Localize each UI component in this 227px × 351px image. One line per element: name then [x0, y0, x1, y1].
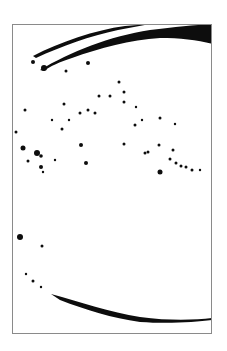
- ink-dot: [86, 61, 90, 65]
- ink-dot: [158, 170, 163, 175]
- ink-dot: [15, 131, 18, 134]
- ink-dot: [79, 112, 82, 115]
- ink-artwork-canvas: [0, 0, 227, 351]
- ink-dot: [39, 154, 43, 158]
- ink-dot: [147, 151, 150, 154]
- ink-artwork: [0, 0, 227, 351]
- ink-dot: [17, 234, 23, 240]
- ink-dot: [61, 128, 64, 131]
- ink-dot: [24, 109, 27, 112]
- ink-dot: [123, 143, 126, 146]
- ink-dot: [40, 286, 42, 288]
- ink-dot: [51, 119, 53, 121]
- ink-dot: [31, 60, 35, 64]
- ink-dot: [25, 273, 27, 275]
- ink-dot: [123, 101, 126, 104]
- ink-dot: [174, 123, 176, 125]
- ink-dot: [94, 112, 97, 115]
- ink-dot: [199, 169, 201, 171]
- ink-dot: [141, 119, 143, 121]
- top-main-stroke: [40, 24, 213, 71]
- ink-dot: [54, 159, 56, 161]
- ink-dot: [134, 124, 137, 127]
- ink-dot: [109, 95, 112, 98]
- ink-dot: [185, 166, 188, 169]
- ink-dot: [32, 280, 35, 283]
- ink-dot: [27, 160, 30, 163]
- ink-dot: [191, 169, 194, 172]
- ink-dot: [169, 158, 172, 161]
- ink-dot: [118, 81, 121, 84]
- ink-dot: [175, 162, 178, 165]
- ink-dot: [68, 119, 70, 121]
- ink-dot: [41, 245, 44, 248]
- ink-dot: [87, 109, 90, 112]
- ink-dot: [98, 95, 101, 98]
- ink-dot: [123, 91, 126, 94]
- ink-dot: [158, 144, 161, 147]
- ink-dot: [144, 152, 147, 155]
- ink-dot: [135, 106, 137, 108]
- ink-dot: [63, 103, 66, 106]
- ink-dot: [42, 171, 44, 173]
- ink-dot: [79, 143, 83, 147]
- ink-dot: [39, 165, 43, 169]
- ink-dot: [41, 65, 47, 71]
- ink-dot: [172, 149, 175, 152]
- ink-dot: [65, 70, 68, 73]
- ink-dot: [159, 117, 162, 120]
- bottom-stroke: [51, 294, 212, 323]
- ink-dot: [34, 150, 40, 156]
- ink-dot: [21, 146, 26, 151]
- ink-dot: [84, 161, 88, 165]
- ink-dot: [180, 165, 183, 168]
